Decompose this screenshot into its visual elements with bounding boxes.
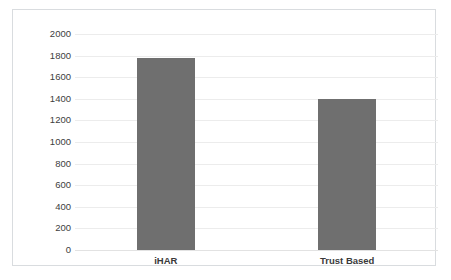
- y-axis-tick-label: 200: [27, 223, 71, 233]
- y-axis-tick-label: 1400: [27, 94, 71, 104]
- gridline: [75, 142, 438, 143]
- y-axis-tick-label: 2000: [27, 29, 71, 39]
- gridline: [75, 77, 438, 78]
- y-axis-tick-label: 1000: [27, 137, 71, 147]
- gridline: [75, 250, 438, 251]
- gridline: [75, 99, 438, 100]
- plot-area: [75, 34, 438, 250]
- y-axis-tick-label: 0: [27, 245, 71, 255]
- gridline: [75, 120, 438, 121]
- y-axis-tick-label: 800: [27, 159, 71, 169]
- y-axis-tick-label: 1200: [27, 115, 71, 125]
- y-axis-tick-labels: 0200400600800100012001400160018002000: [23, 34, 71, 250]
- y-axis-tick-label: 400: [27, 202, 71, 212]
- gridline: [75, 164, 438, 165]
- bar-chart-figure: 0200400600800100012001400160018002000 iH…: [0, 0, 451, 280]
- gridline: [75, 207, 438, 208]
- gridline: [75, 56, 438, 57]
- bar-trust-based: [318, 99, 376, 250]
- chart-frame: 0200400600800100012001400160018002000 iH…: [12, 9, 436, 266]
- gridline: [75, 34, 438, 35]
- gridline: [75, 185, 438, 186]
- gridline: [75, 228, 438, 229]
- y-axis-tick-label: 1600: [27, 72, 71, 82]
- x-axis-category-labels: iHARTrust Based: [75, 255, 438, 271]
- x-axis-label-trust-based: Trust Based: [257, 255, 439, 267]
- x-axis-label-ihar: iHAR: [75, 255, 257, 267]
- bar-ihar: [137, 58, 195, 250]
- y-axis-tick-label: 600: [27, 180, 71, 190]
- y-axis-tick-label: 1800: [27, 51, 71, 61]
